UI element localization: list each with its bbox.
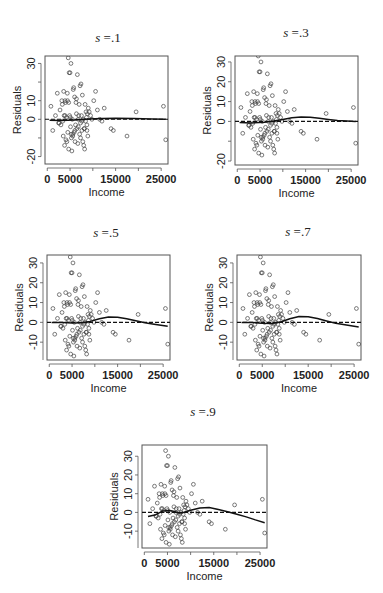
data-point <box>171 516 175 520</box>
data-point <box>223 527 227 531</box>
data-point <box>263 531 267 535</box>
data-point <box>173 535 177 539</box>
data-point <box>177 507 181 511</box>
data-point <box>148 522 152 526</box>
x-tick-label: 15000 <box>198 557 229 569</box>
y-tick-label: 0 <box>122 509 134 515</box>
data-point <box>175 526 179 530</box>
data-point <box>190 492 194 496</box>
y-tick-label: 10 <box>122 488 134 500</box>
data-point <box>200 499 204 503</box>
data-point <box>181 496 185 500</box>
data-point <box>167 542 171 546</box>
data-point <box>183 516 187 520</box>
data-point <box>175 496 179 500</box>
x-axis-label: Income <box>186 570 222 582</box>
y-tick-label: 30 <box>122 450 134 462</box>
data-point <box>155 501 159 505</box>
x-tick-label: 25000 <box>245 557 276 569</box>
data-point <box>160 537 164 541</box>
data-point <box>159 527 163 531</box>
data-point <box>163 484 167 488</box>
plot-frame <box>142 445 267 548</box>
data-point <box>178 486 182 490</box>
y-tick-label: -10 <box>122 523 134 539</box>
data-point <box>179 537 183 541</box>
data-point <box>260 497 264 501</box>
data-point <box>180 540 184 544</box>
y-tick-label: 20 <box>122 469 134 481</box>
data-point <box>151 507 155 511</box>
data-point <box>184 527 188 531</box>
data-point <box>191 482 195 486</box>
data-point <box>233 503 237 507</box>
data-point <box>171 533 175 537</box>
data-point <box>166 518 170 522</box>
data-point <box>153 484 157 488</box>
data-point <box>166 454 170 458</box>
x-tick-label: 5000 <box>155 557 179 569</box>
y-axis-label: Residuals <box>108 472 120 521</box>
data-point <box>164 449 168 453</box>
data-point <box>146 497 150 501</box>
data-point <box>193 501 197 505</box>
data-point <box>184 499 188 503</box>
data-point <box>179 533 183 537</box>
x-tick-label: 0 <box>141 557 147 569</box>
data-point <box>176 529 180 533</box>
scatter-plot-s-9: 050001500025000Income-100102030Residuals <box>0 0 383 593</box>
data-point <box>173 466 177 470</box>
data-point <box>159 482 163 486</box>
